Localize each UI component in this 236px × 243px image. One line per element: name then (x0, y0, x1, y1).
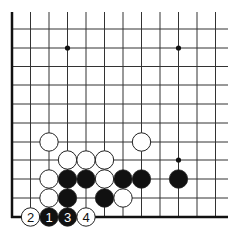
white-stone (114, 189, 132, 207)
white-stone (95, 151, 113, 169)
white-stone (40, 189, 58, 207)
white-stone (132, 133, 150, 151)
star-point-icon (176, 157, 181, 162)
stones (40, 133, 188, 207)
black-stone (58, 189, 76, 207)
black-stone (114, 170, 132, 188)
black-stone (77, 170, 95, 188)
go-board: 2134 (0, 0, 236, 243)
move-number-label: 1 (45, 210, 52, 225)
white-stone (95, 170, 113, 188)
numbered-stones: 2134 (21, 208, 95, 226)
black-stone (132, 170, 150, 188)
white-stone (40, 133, 58, 151)
white-stone (77, 151, 95, 169)
black-stone (169, 170, 187, 188)
move-number-label: 2 (27, 210, 34, 225)
star-point-icon (176, 45, 181, 50)
black-stone (95, 189, 113, 207)
black-stone (58, 170, 76, 188)
star-point-icon (65, 45, 70, 50)
move-number-label: 4 (82, 210, 89, 225)
move-number-label: 3 (64, 210, 71, 225)
white-stone (40, 170, 58, 188)
white-stone (58, 151, 76, 169)
